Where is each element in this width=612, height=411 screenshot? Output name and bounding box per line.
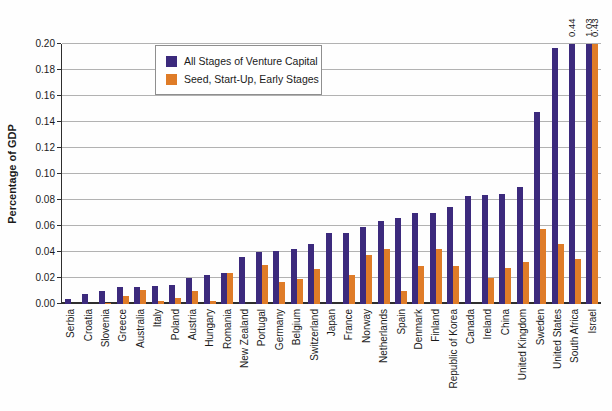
- gridline: [62, 173, 601, 174]
- y-tick-label: 0.10: [23, 168, 55, 180]
- y-tick-label: 0.02: [23, 272, 55, 284]
- bar: [401, 291, 407, 304]
- y-tick-label: 0.08: [23, 194, 55, 206]
- bar: [158, 301, 164, 304]
- x-axis-label: South Africa: [569, 309, 580, 363]
- bar: [227, 273, 233, 304]
- y-tick-mark: [57, 199, 61, 200]
- bar: [465, 196, 471, 304]
- legend: All Stages of Venture Capital Seed, Star…: [155, 45, 322, 95]
- bar: [540, 229, 546, 304]
- y-tick-mark: [57, 147, 61, 148]
- gridline: [62, 147, 601, 148]
- bar: [349, 275, 355, 304]
- bar: [123, 296, 129, 304]
- x-axis-label: Belgium: [291, 309, 302, 345]
- x-axis-label: Sweden: [535, 309, 546, 345]
- bar: [558, 244, 564, 304]
- bar: [192, 291, 198, 304]
- bar: [453, 266, 459, 304]
- y-axis-title: Percentage of GDP: [6, 74, 20, 274]
- legend-item-all-stages: All Stages of Venture Capital: [166, 52, 321, 70]
- bar: [436, 249, 442, 304]
- legend-swatch-all-stages-icon: [166, 56, 177, 67]
- x-axis-label: Hungary: [204, 309, 215, 347]
- bar: [523, 262, 529, 304]
- y-tick-mark: [57, 277, 61, 278]
- bar: [326, 233, 332, 305]
- bar: [140, 290, 146, 304]
- y-tick-label: 0.18: [23, 64, 55, 76]
- y-tick-label: 0.12: [23, 142, 55, 154]
- bar: [210, 301, 216, 304]
- y-tick-mark: [57, 173, 61, 174]
- bar: [175, 298, 181, 305]
- y-tick-label: 0.04: [23, 246, 55, 258]
- bar: [575, 259, 581, 305]
- x-axis-label: Switzerland: [309, 309, 320, 361]
- y-tick-mark: [57, 303, 61, 304]
- y-tick-mark: [57, 95, 61, 96]
- x-axis-label: Romania: [222, 309, 233, 349]
- x-axis-label: Ireland: [482, 309, 493, 340]
- bar: [488, 278, 494, 304]
- x-axis-label: New Zealand: [239, 309, 250, 368]
- gridline: [62, 121, 601, 122]
- bar: [384, 249, 390, 304]
- bar: [262, 265, 268, 304]
- y-tick-label: 0.20: [23, 38, 55, 50]
- y-tick-label: 0.14: [23, 116, 55, 128]
- y-tick-mark: [57, 121, 61, 122]
- chart: Percentage of GDP 0.000.020.040.060.080.…: [0, 0, 612, 411]
- x-axis-label: Japan: [326, 309, 337, 336]
- y-tick-label: 0.00: [23, 298, 55, 310]
- bar: [65, 299, 71, 304]
- bar: [366, 255, 372, 304]
- bar: [105, 303, 111, 304]
- y-tick-label: 0.16: [23, 90, 55, 102]
- gridline: [62, 95, 601, 96]
- bar: [592, 44, 598, 304]
- x-axis-label: Austria: [187, 309, 198, 340]
- x-axis-label: Israel: [587, 309, 598, 333]
- y-tick-mark: [57, 251, 61, 252]
- bar: [418, 266, 424, 304]
- x-axis-label: China: [500, 309, 511, 335]
- x-axis-label: Australia: [135, 309, 146, 348]
- x-axis-label: Republic of Korea: [448, 309, 459, 389]
- x-axis-label: Spain: [396, 309, 407, 335]
- x-axis-label: Italy: [152, 309, 163, 327]
- legend-item-seed-early: Seed, Start-Up, Early Stages: [166, 70, 321, 88]
- y-tick-mark: [57, 69, 61, 70]
- bar-value-label: 0.44: [567, 19, 577, 38]
- x-axis-label: Poland: [170, 309, 181, 340]
- x-axis-label: Denmark: [413, 309, 424, 350]
- x-axis-label: Greece: [117, 309, 128, 342]
- x-axis-label: Canada: [465, 309, 476, 344]
- gridline: [62, 43, 601, 44]
- x-axis-label: Portugal: [256, 309, 267, 346]
- y-tick-mark: [57, 43, 61, 44]
- bar: [204, 275, 210, 304]
- bar: [314, 269, 320, 304]
- x-axis-label: Slovenia: [100, 309, 111, 347]
- x-axis-label: United Kingdom: [517, 309, 528, 380]
- bar: [297, 279, 303, 304]
- x-axis-label: Croatia: [83, 309, 94, 341]
- legend-label-all-stages: All Stages of Venture Capital: [184, 55, 318, 67]
- x-axis-label: Netherlands: [378, 309, 389, 363]
- legend-swatch-seed-early-icon: [166, 74, 177, 85]
- legend-label-seed-early: Seed, Start-Up, Early Stages: [184, 73, 319, 85]
- y-tick-label: 0.06: [23, 220, 55, 232]
- gridline: [62, 69, 601, 70]
- bar: [505, 268, 511, 304]
- x-axis-label: Serbia: [65, 309, 76, 338]
- x-axis-label: United States: [552, 309, 563, 369]
- x-axis-label: Finland: [430, 309, 441, 342]
- x-axis-label: France: [343, 309, 354, 340]
- bar-value-label: 0.43: [590, 19, 600, 38]
- bar: [82, 294, 88, 304]
- bar: [239, 257, 245, 304]
- y-tick-mark: [57, 225, 61, 226]
- bar: [279, 282, 285, 304]
